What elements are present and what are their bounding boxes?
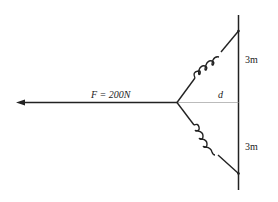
arrowhead-icon <box>16 100 25 106</box>
force-label: F = 200N <box>90 89 132 100</box>
bottom-attachment <box>237 172 240 175</box>
spring-force-diagram: F = 200N d 3m 3m <box>0 0 278 202</box>
bottom-spring <box>177 103 239 174</box>
top-attachment <box>237 30 240 33</box>
top-spacing-label: 3m <box>245 54 258 65</box>
bottom-spacing-label: 3m <box>245 141 258 152</box>
distance-label: d <box>218 89 224 100</box>
top-spring <box>177 31 239 103</box>
